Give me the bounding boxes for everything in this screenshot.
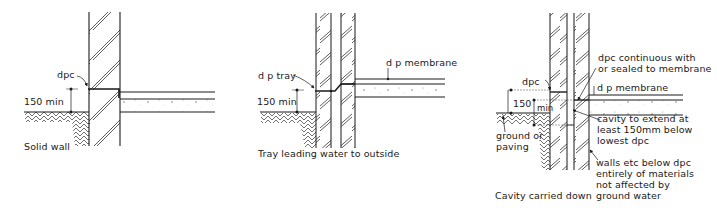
dpc-continuous-label: dpc continuous with or sealed to membran… <box>598 52 712 74</box>
height-label: 150 min <box>24 96 64 107</box>
dp-tray-label: d p tray <box>258 70 296 81</box>
dpc-details-diagram: dpc 150 min Solid wall d p tray d p memb… <box>0 0 717 219</box>
panel-caption: Cavity carried down <box>495 190 592 201</box>
floor-slab <box>341 79 445 97</box>
ground-hatch <box>260 112 316 148</box>
height-label: 150 min <box>257 96 297 107</box>
panel-caption: Solid wall <box>24 141 70 152</box>
dpc-label: dpc <box>57 69 75 80</box>
height-unit-label: min <box>537 103 553 114</box>
walls-below-label: walls etc below dpc entirely of material… <box>596 157 694 201</box>
inner-leaf <box>574 13 589 170</box>
height-dimension <box>66 88 78 114</box>
cavity-extend-label: cavity to extend at least 150mm below lo… <box>597 113 692 146</box>
dp-membrane-label: d p membrane <box>386 57 457 68</box>
ground-label: ground or paving <box>496 130 543 152</box>
dpc-leader <box>77 76 87 86</box>
floor-slab <box>120 92 215 112</box>
floor-slab <box>589 95 683 115</box>
dpc-leader <box>545 80 550 90</box>
dp-membrane-label: d p membrane <box>597 82 668 93</box>
dp-tray-leader <box>293 75 314 88</box>
panel-caption: Tray leading water to outside <box>258 148 399 159</box>
solid-wall <box>89 12 120 146</box>
dpc-label: dpc <box>522 76 540 87</box>
outer-leaf <box>316 13 331 148</box>
height-number-label: 150 <box>513 98 531 109</box>
inner-leaf <box>341 13 355 148</box>
panel-solid-wall <box>24 12 215 146</box>
